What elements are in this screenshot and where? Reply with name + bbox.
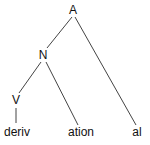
node-a: A <box>69 3 77 17</box>
edge-n-ation <box>46 62 78 125</box>
leaf-deriv: deriv <box>4 125 30 139</box>
tree-diagram: A N V deriv ation al <box>0 0 150 145</box>
leaf-al: al <box>132 125 141 139</box>
node-n: N <box>39 48 48 62</box>
edge-n-v <box>19 62 41 93</box>
leaf-ation: ation <box>68 125 94 139</box>
edge-a-al <box>75 17 136 125</box>
node-v: V <box>12 93 20 107</box>
edge-a-n <box>47 17 72 48</box>
